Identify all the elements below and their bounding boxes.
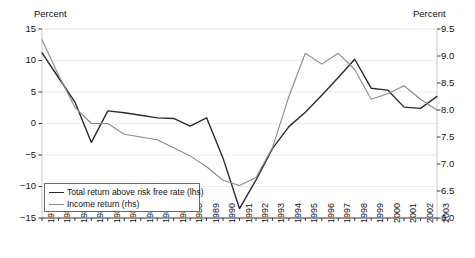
plot-area [0,0,475,258]
chart-container: Percent Percent 151050−5−10−15 9.59.08.5… [0,0,475,258]
legend-item-income-return: Income return (rhs) [49,198,139,211]
legend-swatch-total-return [49,192,64,193]
legend-swatch-income-return [49,204,64,205]
legend: Total return above risk free rate (lhs) … [44,183,200,212]
legend-label-income-return: Income return (rhs) [67,199,139,210]
legend-label-total-return: Total return above risk free rate (lhs) [67,187,204,198]
series-line-income-return [42,40,437,186]
